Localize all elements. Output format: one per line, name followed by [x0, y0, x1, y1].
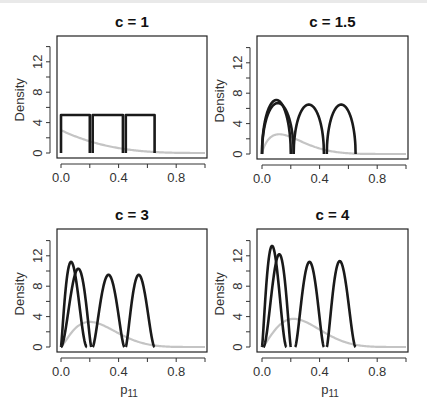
- x-tick-label: 0.4: [311, 364, 329, 379]
- x-tick-label: 0.8: [368, 171, 386, 186]
- y-axis: 04812Density: [212, 48, 250, 158]
- y-tick-label: 4: [30, 313, 45, 320]
- y-tick-label: 8: [230, 90, 245, 97]
- y-axis: 04812Density: [12, 241, 50, 351]
- x-tick-label: 0.0: [253, 171, 271, 186]
- y-tick-label: 4: [230, 313, 245, 320]
- x-tick-label: 0.0: [253, 364, 271, 379]
- posterior-density-curve: [126, 275, 155, 347]
- posterior-density-curve: [61, 115, 90, 153]
- x-tick-label: 0.4: [110, 364, 128, 379]
- plot-frame: [257, 36, 408, 159]
- x-tick-label: 0.8: [368, 364, 386, 379]
- prior-density-curve: [262, 134, 406, 154]
- plot-frame: [57, 229, 207, 352]
- x-tick-label: 0.0: [52, 170, 70, 185]
- x-axis: 0.00.40.8p11: [52, 358, 205, 399]
- posterior-density-curve: [327, 105, 356, 154]
- y-tick-label: 12: [30, 249, 45, 263]
- posterior-density-curve: [294, 105, 324, 154]
- density-figure: c = 104812Density0.00.40.8c = 1.504812De…: [0, 0, 427, 408]
- panel-4: c = 404812Density0.00.40.8p11: [212, 206, 408, 399]
- posterior-density-curve: [126, 115, 155, 153]
- y-axis-label: Density: [12, 78, 27, 122]
- panel-title: c = 1.5: [309, 13, 355, 30]
- posterior-density-curve: [295, 262, 324, 347]
- x-tick-label: 0.4: [311, 171, 329, 186]
- posterior-density-curve: [327, 261, 356, 347]
- y-axis: 04812Density: [12, 47, 50, 157]
- y-axis: 04812Density: [212, 241, 250, 351]
- y-tick-label: 4: [30, 119, 45, 126]
- y-tick-label: 8: [30, 89, 45, 96]
- panel-3: c = 304812Density0.00.40.8p11: [12, 206, 207, 399]
- y-tick-label: 12: [30, 55, 45, 69]
- prior-density-curve: [61, 130, 205, 153]
- x-tick-label: 0.4: [110, 170, 128, 185]
- x-axis-label: p11: [321, 382, 339, 399]
- x-axis: 0.00.40.8: [52, 164, 205, 185]
- y-tick-label: 12: [230, 56, 245, 70]
- y-tick-label: 12: [230, 249, 245, 263]
- panel-2: c = 1.504812Density0.00.40.8: [212, 13, 408, 186]
- panel-1: c = 104812Density0.00.40.8: [12, 13, 207, 185]
- y-axis-label: Density: [212, 272, 227, 316]
- x-tick-label: 0.0: [52, 364, 70, 379]
- y-tick-label: 0: [230, 150, 245, 157]
- y-tick-label: 8: [230, 283, 245, 290]
- x-axis: 0.00.40.8p11: [253, 358, 406, 399]
- panel-title: c = 3: [115, 206, 149, 223]
- posterior-density-curve: [262, 100, 291, 154]
- x-axis: 0.00.40.8: [253, 165, 406, 186]
- panel-title: c = 4: [316, 206, 350, 223]
- y-tick-label: 0: [30, 149, 45, 156]
- y-axis-label: Density: [12, 272, 27, 316]
- x-tick-label: 0.8: [167, 170, 185, 185]
- y-tick-label: 4: [230, 120, 245, 127]
- y-tick-label: 0: [230, 343, 245, 350]
- x-axis-label: p11: [120, 382, 138, 399]
- posterior-density-curve: [93, 275, 125, 347]
- x-tick-label: 0.8: [167, 364, 185, 379]
- panel-title: c = 1: [115, 13, 149, 30]
- y-tick-label: 8: [30, 283, 45, 290]
- y-tick-label: 0: [30, 343, 45, 350]
- plot-frame: [57, 36, 207, 158]
- y-axis-label: Density: [212, 79, 227, 123]
